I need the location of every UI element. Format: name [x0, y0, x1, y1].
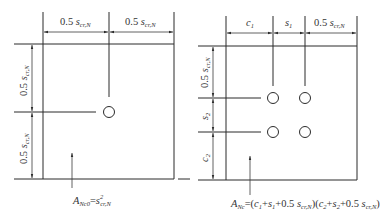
figure-single-anchor: 0.5 scr,N 0.5 scr,N 0.5 scr,N 0.5 scr,N …: [14, 12, 190, 207]
dim-label-top-3: 0.5 scr,N: [314, 17, 345, 29]
anchor-hole-icon: [268, 127, 279, 138]
area-formula-single: ANc0=s2cr,N: [72, 193, 111, 207]
figure-anchor-group: c1 s1 0.5 scr,N 0.5 scr,N s2 c2 ANc=(c1+…: [198, 16, 380, 210]
dim-label-s2: s2: [199, 112, 211, 120]
anchor-hole-icon: [104, 107, 115, 118]
dim-label-top-1: 0.5 scr,N: [60, 16, 91, 28]
dim-label-left-1: 0.5 scr,N: [18, 65, 30, 96]
dim-label-s1: s1: [285, 17, 292, 29]
anchor-area-diagram: 0.5 scr,N 0.5 scr,N 0.5 scr,N 0.5 scr,N …: [0, 0, 381, 215]
anchor-hole-icon: [300, 127, 311, 138]
dim-label-top-2: 0.5 scr,N: [125, 16, 156, 28]
anchor-hole-icon: [300, 93, 311, 104]
dim-label-c2: c2: [199, 153, 211, 162]
area-formula-group: ANc=(c1+s1+0.5 scr,N)(c2+s2+0.5 scr,N): [230, 198, 380, 210]
dim-label-left-1: 0.5 scr,N: [199, 57, 211, 88]
anchor-hole-icon: [268, 93, 279, 104]
dim-label-c1: c1: [246, 17, 254, 29]
dim-label-left-2: 0.5 scr,N: [18, 133, 30, 164]
